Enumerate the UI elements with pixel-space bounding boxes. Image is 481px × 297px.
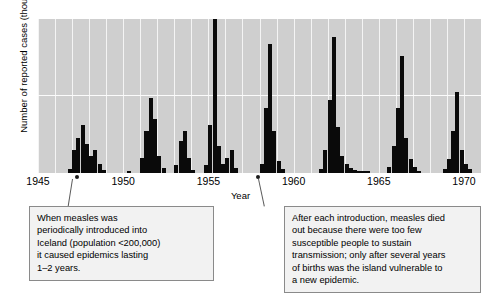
annotation-line: transmission; only after several years: [292, 249, 473, 261]
gridline-vertical: [140, 19, 141, 173]
bar: [281, 169, 285, 173]
x-axis-tick-label: 1965: [359, 175, 399, 187]
gridline-vertical: [55, 19, 56, 173]
gridline-vertical: [191, 19, 192, 173]
gridline-vertical: [311, 19, 312, 173]
gridline-vertical: [413, 19, 414, 173]
left-callout-leader-dot: [75, 175, 79, 179]
annotation-line: periodically introduced into: [37, 224, 206, 236]
annotation-line: of births was the island vulnerable to: [292, 262, 473, 274]
gridline-vertical: [242, 19, 243, 173]
y-axis-label: Number of reported cases (thousands): [18, 0, 29, 137]
annotation-line: Iceland (population <200,000): [37, 237, 206, 249]
bar: [234, 168, 238, 173]
annotation-line: 1–2 years.: [37, 262, 206, 274]
bar: [366, 171, 370, 173]
annotation-line: out because there were too few: [292, 224, 473, 236]
annotation-line: susceptible people to sustain: [292, 237, 473, 249]
annotation-callout-right: After each introduction, measles diedout…: [284, 206, 481, 293]
annotation-line: it caused epidemics lasting: [37, 249, 206, 261]
gridline-vertical: [464, 19, 465, 173]
gridline-horizontal: [38, 95, 481, 96]
gridline-vertical: [277, 19, 278, 173]
bar: [468, 169, 472, 173]
bar: [417, 171, 421, 173]
gridline-vertical: [260, 19, 261, 173]
bar: [162, 168, 166, 173]
x-axis-label: Year: [0, 190, 481, 201]
annotation-line: a new epidemic.: [292, 274, 473, 286]
gridline-vertical: [294, 19, 295, 173]
gridline-vertical: [123, 19, 124, 173]
gridline-vertical: [106, 19, 107, 173]
annotation-line: After each introduction, measles died: [292, 212, 473, 224]
annotation-line: When measles was: [37, 212, 206, 224]
measles-iceland-figure: 012 Number of reported cases (thousands)…: [0, 0, 481, 297]
gridline-vertical: [362, 19, 363, 173]
gridline-vertical: [447, 19, 448, 173]
bar: [127, 171, 131, 173]
gridline-vertical: [345, 19, 346, 173]
gridline-vertical: [38, 19, 39, 173]
gridline-vertical: [379, 19, 380, 173]
bar: [191, 170, 195, 173]
x-axis-tick-label: 1945: [18, 175, 58, 187]
gridline-vertical: [225, 19, 226, 173]
x-axis-tick-label: 1960: [274, 175, 314, 187]
x-axis-tick-label: 1970: [444, 175, 481, 187]
gridline-vertical: [174, 19, 175, 173]
gridline-vertical: [157, 19, 158, 173]
chart-plot-area: [38, 19, 481, 173]
annotation-callout-left: When measles wasperiodically introduced …: [29, 206, 214, 281]
bar: [102, 170, 106, 173]
gridline-vertical: [89, 19, 90, 173]
gridline-vertical: [430, 19, 431, 173]
x-axis-tick-label: 1950: [103, 175, 143, 187]
x-axis-tick-label: 1955: [188, 175, 228, 187]
